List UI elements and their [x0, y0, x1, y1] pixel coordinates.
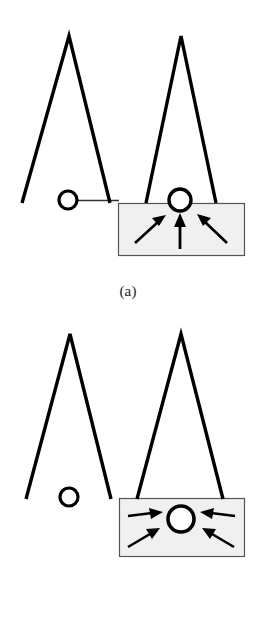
- tent-right-b: [137, 334, 223, 499]
- circle-right-a: [169, 189, 191, 211]
- figure-root: (a): [0, 0, 256, 619]
- circle-left-b: [60, 488, 78, 506]
- tent-right-a: [146, 36, 216, 203]
- panel-a-graphic: [0, 0, 256, 310]
- panel-a: (a): [0, 0, 256, 310]
- tent-left-b: [26, 334, 111, 499]
- circle-left-a: [59, 191, 77, 209]
- panel-b: (b): [0, 310, 256, 619]
- tent-left-a: [22, 36, 110, 203]
- panel-b-graphic: [0, 310, 256, 619]
- circle-center-b: [168, 506, 194, 532]
- caption-panel-a: (a): [0, 283, 256, 300]
